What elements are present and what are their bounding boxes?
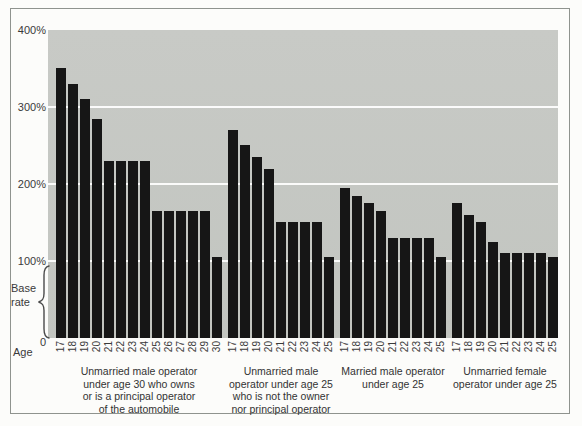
age-tick-cell: 21 <box>388 341 398 361</box>
g3-bar-age-17 <box>340 188 350 338</box>
age-tick-cell: 23 <box>300 341 310 361</box>
age-tick-cell: 25 <box>436 341 446 361</box>
caption-line: of the automobile <box>99 403 180 416</box>
g2-bar-age-22 <box>288 222 298 338</box>
bars-row <box>228 30 334 338</box>
g3-bar-age-25 <box>436 257 446 338</box>
age-tick-cell: 21 <box>104 341 114 361</box>
age-tick-cell: 21 <box>500 341 510 361</box>
g4-bar-age-25 <box>548 257 558 338</box>
g3-bar-age-22 <box>400 238 410 338</box>
age-tick-label: 18 <box>68 341 78 352</box>
bars-row <box>340 30 446 338</box>
age-tick-cell: 23 <box>412 341 422 361</box>
age-tick-cell: 18 <box>240 341 250 361</box>
age-tick-label: 24 <box>312 341 322 352</box>
g4-bar-age-23 <box>524 253 534 338</box>
base-rate-label-line2: rate <box>11 295 36 309</box>
age-tick-label: 24 <box>536 341 546 352</box>
age-tick-cell: 28 <box>188 341 198 361</box>
g1-bar-age-24 <box>140 161 150 338</box>
age-tick-label: 18 <box>352 341 362 352</box>
age-tick-row: 1718192021222324252627282930 <box>56 341 222 361</box>
g3-bar-age-23 <box>412 238 422 338</box>
bar-group-1: 1718192021222324252627282930Unmarried ma… <box>56 30 222 415</box>
g1-bar-age-20 <box>92 119 102 338</box>
age-tick-cell: 23 <box>128 341 138 361</box>
age-tick-cell: 17 <box>56 341 66 361</box>
age-tick-cell: 21 <box>276 341 286 361</box>
age-tick-label: 24 <box>140 341 150 352</box>
age-tick-row: 171819202122232425 <box>452 341 558 361</box>
g4-bar-age-18 <box>464 215 474 338</box>
g3-bar-age-21 <box>388 238 398 338</box>
age-tick-label: 22 <box>400 341 410 352</box>
group-caption: Unmarried male operatorunder age 30 who … <box>56 365 222 415</box>
age-tick-label: 23 <box>524 341 534 352</box>
age-tick-label: 17 <box>452 341 462 352</box>
age-tick-label: 21 <box>276 341 286 352</box>
age-tick-cell: 19 <box>476 341 486 361</box>
age-tick-label: 26 <box>164 341 174 352</box>
bar-group-3: 171819202122232425Married male operatoru… <box>340 30 446 390</box>
age-tick-cell: 22 <box>512 341 522 361</box>
age-tick-label: 25 <box>152 341 162 352</box>
age-tick-label: 25 <box>436 341 446 352</box>
age-tick-label: 19 <box>80 341 90 352</box>
age-tick-cell: 19 <box>252 341 262 361</box>
age-tick-label: 29 <box>200 341 210 352</box>
caption-line: Unmarried male <box>244 365 319 378</box>
group-caption: Unmarried maleoperator under age 25who i… <box>228 365 334 415</box>
age-tick-label: 28 <box>188 341 198 352</box>
age-tick-cell: 18 <box>464 341 474 361</box>
y-tick-label-300: 300% <box>12 101 46 113</box>
age-tick-label: 19 <box>476 341 486 352</box>
g2-bar-age-19 <box>252 157 262 338</box>
age-tick-cell: 25 <box>548 341 558 361</box>
caption-line: operator under age 25 <box>229 378 333 391</box>
g1-bar-age-28 <box>188 211 198 338</box>
age-tick-cell: 20 <box>92 341 102 361</box>
age-tick-label: 23 <box>128 341 138 352</box>
age-tick-cell: 20 <box>264 341 274 361</box>
age-tick-label: 18 <box>464 341 474 352</box>
g4-bar-age-24 <box>536 253 546 338</box>
bars-row <box>452 30 558 338</box>
g1-bar-age-21 <box>104 161 114 338</box>
age-tick-row: 171819202122232425 <box>340 341 446 361</box>
g2-bar-age-25 <box>324 257 334 338</box>
age-tick-label: 17 <box>228 341 238 352</box>
g1-bar-age-19 <box>80 99 90 338</box>
g2-bar-age-17 <box>228 130 238 338</box>
g4-bar-age-21 <box>500 253 510 338</box>
age-tick-label: 21 <box>104 341 114 352</box>
age-tick-cell: 26 <box>164 341 174 361</box>
g4-bar-age-22 <box>512 253 522 338</box>
age-tick-cell: 17 <box>228 341 238 361</box>
g4-bar-age-17 <box>452 203 462 338</box>
bar-group-2: 171819202122232425Unmarried maleoperator… <box>228 30 334 415</box>
age-tick-cell: 25 <box>152 341 162 361</box>
caption-line: operator under age 25 <box>453 378 557 391</box>
age-tick-label: 17 <box>340 341 350 352</box>
x-axis-title: Age <box>13 346 33 358</box>
age-tick-label: 19 <box>252 341 262 352</box>
age-tick-cell: 30 <box>212 341 222 361</box>
g1-bar-age-23 <box>128 161 138 338</box>
age-tick-cell: 17 <box>452 341 462 361</box>
caption-line: Unmarried male operator <box>81 365 198 378</box>
caption-line: Unmarried female <box>463 365 546 378</box>
age-tick-label: 20 <box>488 341 498 352</box>
age-tick-cell: 23 <box>524 341 534 361</box>
age-tick-label: 22 <box>288 341 298 352</box>
g1-bar-age-27 <box>176 211 186 338</box>
g2-bar-age-21 <box>276 222 286 338</box>
age-tick-cell: 18 <box>68 341 78 361</box>
age-tick-label: 25 <box>324 341 334 352</box>
age-tick-label: 21 <box>388 341 398 352</box>
age-tick-cell: 24 <box>140 341 150 361</box>
age-tick-label: 30 <box>212 341 222 352</box>
g1-bar-age-25 <box>152 211 162 338</box>
chart-page: 400%300%200%100%0 Base rate Age 17181920… <box>0 0 582 426</box>
group-caption: Unmarried femaleoperator under age 25 <box>452 365 558 390</box>
